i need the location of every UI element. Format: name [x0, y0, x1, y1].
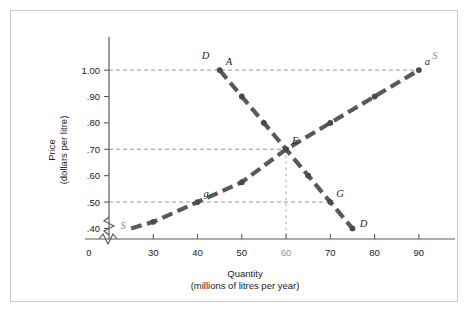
x-tick-label-30: 30 — [148, 247, 159, 258]
x-tick-label-70: 70 — [325, 247, 336, 258]
supply-demand-chart: 1.00.90.80.70.60.50.40030405060708090AaE… — [11, 11, 459, 303]
x-tick-label-50: 50 — [237, 247, 248, 258]
annotation-E: E — [291, 135, 299, 146]
y-axis-subtitle: (dollars per litre) — [58, 116, 69, 185]
curve-label-demand-start: D — [201, 50, 210, 61]
datapoint-demand-4 — [305, 173, 311, 179]
datapoint-supply-0 — [150, 219, 156, 225]
y-tick-label-.80: .80 — [87, 117, 100, 128]
x-tick-label-80: 80 — [369, 247, 380, 258]
annotation-g: g — [204, 188, 209, 199]
y-axis-title: Price — [46, 139, 57, 161]
y-tick-label-.40: .40 — [87, 223, 100, 234]
datapoint-supply-1 — [195, 199, 201, 205]
x-tick-label-90: 90 — [414, 247, 425, 258]
datapoint-demand-0 — [217, 67, 223, 73]
annotation-a: a — [425, 56, 430, 67]
figure-container: 1.00.90.80.70.60.50.40030405060708090AaE… — [0, 0, 470, 314]
datapoint-supply-5 — [372, 94, 378, 100]
x-axis-title: Quantity — [227, 268, 263, 279]
datapoint-supply-3 — [283, 146, 289, 152]
y-tick-label-1.00: 1.00 — [82, 65, 101, 76]
curve-label-supply-end: S — [432, 50, 438, 61]
annotation-A: A — [225, 56, 233, 67]
curve-label-supply-start: S — [121, 220, 127, 231]
datapoint-demand-6 — [350, 226, 356, 232]
y-tick-label-.90: .90 — [87, 91, 100, 102]
datapoint-demand-2 — [261, 120, 267, 126]
annotation-G: G — [336, 188, 344, 199]
datapoint-supply-6 — [416, 67, 422, 73]
curve-label-demand-end: D — [359, 218, 368, 229]
x-axis-subtitle: (millions of litres per year) — [191, 280, 300, 291]
y-tick-label-.70: .70 — [87, 144, 100, 155]
datapoint-demand-5 — [327, 199, 333, 205]
datapoint-supply-2 — [239, 179, 245, 185]
y-tick-label-.50: .50 — [87, 197, 100, 208]
datapoint-demand-1 — [239, 94, 245, 100]
datapoint-supply-4 — [327, 120, 333, 126]
x-tick-label-0: 0 — [86, 247, 91, 258]
x-tick-label-60: 60 — [281, 247, 292, 258]
figure-frame: 1.00.90.80.70.60.50.40030405060708090AaE… — [10, 10, 458, 302]
x-tick-label-40: 40 — [192, 247, 203, 258]
y-tick-label-.60: .60 — [87, 170, 100, 181]
